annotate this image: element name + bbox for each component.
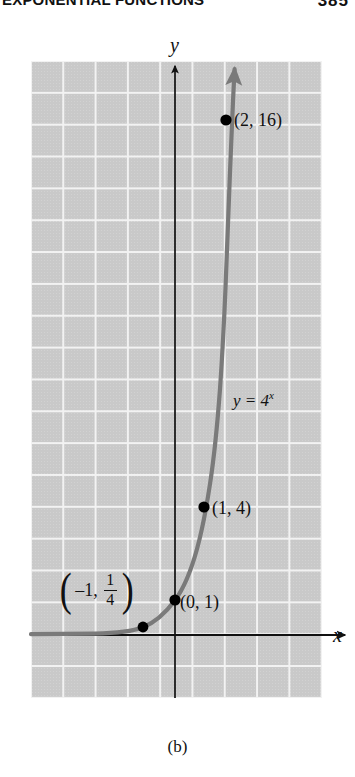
point-neg1-quarter	[138, 622, 149, 633]
curve-equation-base: y = 4	[233, 391, 269, 410]
point-0-1	[169, 594, 180, 605]
point-label-neg1-quarter: ( –1, 1 4 )	[58, 572, 135, 609]
point-label-1-4: (1, 4)	[212, 498, 251, 519]
point-2-16	[220, 114, 231, 125]
fraction-x-value: –1,	[74, 580, 102, 601]
figure-exponential-graph: y x y = 4x (2, 16) (1, 4) (0, 1) ( –1, 1…	[0, 0, 355, 777]
fraction-numerator: 1	[104, 572, 116, 589]
fraction-open-paren: (	[60, 576, 72, 605]
curve-equation-label: y = 4x	[233, 389, 274, 411]
fraction-close-paren: )	[122, 576, 134, 605]
figure-caption: (b)	[0, 737, 355, 757]
y-axis-label: y	[170, 34, 179, 57]
point-1-4	[198, 501, 209, 512]
fraction-denominator: 4	[104, 592, 116, 609]
x-axis-label: x	[333, 624, 342, 647]
exponential-curve	[31, 69, 235, 634]
point-label-2-16: (2, 16)	[234, 110, 282, 131]
fraction-body: –1, 1 4	[73, 572, 120, 609]
fraction-one-quarter: 1 4	[102, 572, 119, 609]
point-label-0-1: (0, 1)	[180, 592, 219, 613]
curve-equation-exponent: x	[269, 389, 274, 401]
graph-vector-layer	[0, 0, 355, 777]
